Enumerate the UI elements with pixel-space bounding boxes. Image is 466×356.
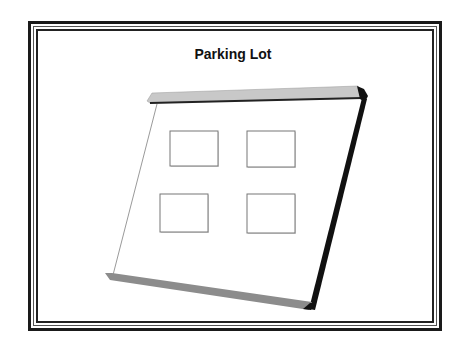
lot-left-edge bbox=[113, 104, 157, 275]
parking-space-3 bbox=[160, 194, 209, 233]
parking-lot-drawing bbox=[0, 0, 466, 356]
parking-space-2 bbox=[247, 131, 296, 168]
parking-space-1 bbox=[170, 131, 219, 167]
lot-right-edge bbox=[309, 98, 367, 310]
parking-space-4 bbox=[247, 194, 296, 234]
lot-bottom-slab bbox=[105, 273, 312, 310]
